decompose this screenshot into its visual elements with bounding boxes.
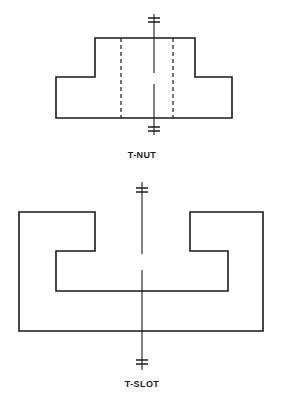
drawing-canvas <box>0 0 284 402</box>
t-nut-outline <box>56 38 232 118</box>
figure-t-nut <box>56 14 232 135</box>
t-nut-caption: T-NUT <box>0 150 284 160</box>
technical-drawing-sheet: T-NUT T-SLOT <box>0 0 284 402</box>
figure-t-slot <box>19 182 263 370</box>
t-slot-outline <box>19 212 263 331</box>
t-slot-caption: T-SLOT <box>0 379 284 389</box>
